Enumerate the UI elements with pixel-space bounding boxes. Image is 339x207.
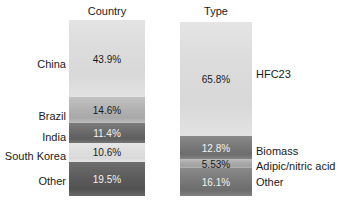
label-adipic-nitric-acid: Adipic/nitric acid bbox=[256, 160, 335, 172]
segment-value-china: 43.9% bbox=[69, 53, 145, 64]
segment-value-hfc23: 65.8% bbox=[180, 74, 252, 85]
segment-china[interactable]: 43.9% bbox=[69, 20, 145, 97]
segment-value-other-type: 16.1% bbox=[180, 177, 252, 188]
type-stacked-bar: 65.8% 12.8% 5.53% 16.1% bbox=[180, 22, 252, 196]
type-panel-title: Type bbox=[180, 5, 252, 17]
label-other-country: Other bbox=[38, 175, 66, 187]
segment-hfc23[interactable]: 65.8% bbox=[180, 22, 252, 136]
country-panel-title: Country bbox=[68, 5, 146, 17]
segment-other-country[interactable]: 19.5% bbox=[69, 162, 145, 196]
label-china: China bbox=[37, 58, 66, 70]
segment-biomass[interactable]: 12.8% bbox=[180, 136, 252, 158]
label-brazil: Brazil bbox=[38, 110, 66, 122]
segment-value-brazil: 14.6% bbox=[69, 105, 145, 116]
label-india: India bbox=[42, 131, 66, 143]
segment-value-south-korea: 10.6% bbox=[69, 147, 145, 158]
segment-brazil[interactable]: 14.6% bbox=[69, 97, 145, 123]
label-biomass: Biomass bbox=[256, 145, 298, 157]
label-south-korea: South Korea bbox=[5, 150, 66, 162]
segment-india[interactable]: 11.4% bbox=[69, 123, 145, 143]
label-hfc23: HFC23 bbox=[256, 68, 291, 80]
label-other-type: Other bbox=[256, 176, 284, 188]
segment-value-biomass: 12.8% bbox=[180, 142, 252, 153]
segment-value-adipic-nitric-acid: 5.53% bbox=[180, 159, 252, 169]
segment-value-india: 11.4% bbox=[69, 127, 145, 138]
stacked-bar-chart: Country 43.9% 14.6% 11.4% 10.6% 19.5% Ch… bbox=[0, 0, 339, 207]
segment-value-other-country: 19.5% bbox=[69, 173, 145, 184]
segment-south-korea[interactable]: 10.6% bbox=[69, 143, 145, 162]
segment-adipic-nitric-acid[interactable]: 5.53% bbox=[180, 159, 252, 169]
segment-other-type[interactable]: 16.1% bbox=[180, 168, 252, 196]
country-stacked-bar: 43.9% 14.6% 11.4% 10.6% 19.5% bbox=[69, 20, 145, 196]
